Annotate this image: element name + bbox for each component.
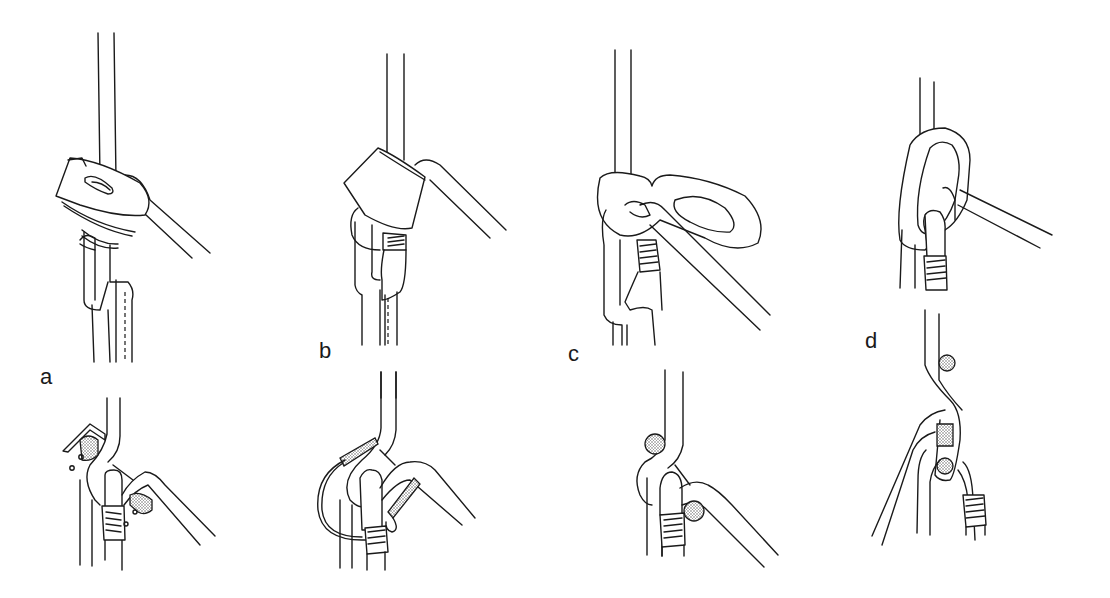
panel-label-a: a bbox=[40, 366, 52, 388]
panel-label-c: c bbox=[568, 343, 579, 365]
panel-a-cross-section bbox=[63, 398, 215, 570]
panel-c-cross-section bbox=[637, 370, 778, 567]
figure-drawing bbox=[0, 0, 1110, 598]
panel-d-perspective bbox=[899, 78, 1052, 290]
panel-c-perspective bbox=[598, 50, 771, 345]
panel-d-cross-section bbox=[872, 310, 986, 545]
panel-label-d: d bbox=[865, 330, 877, 352]
belay-device-figure: a b c d bbox=[0, 0, 1110, 598]
panel-b-cross-section bbox=[318, 372, 475, 570]
panel-a-perspective bbox=[56, 33, 210, 362]
panel-label-b: b bbox=[319, 340, 331, 362]
panel-b-perspective bbox=[344, 54, 506, 398]
